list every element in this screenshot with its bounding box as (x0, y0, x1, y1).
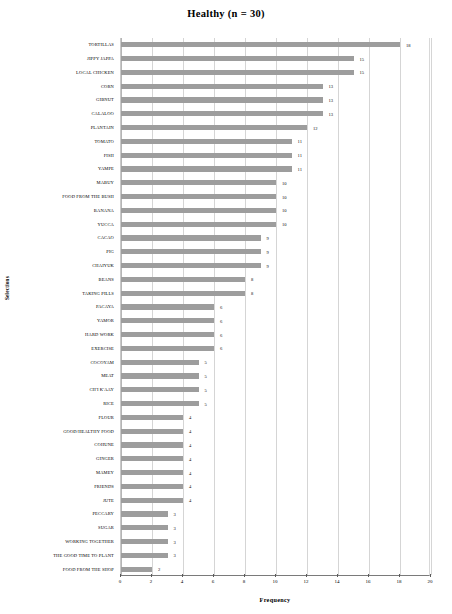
x-axis-ticks: 02468101214161820 (120, 577, 430, 591)
bar (121, 387, 199, 392)
bar-value-label: 6 (220, 318, 222, 323)
category-label: GIBNUT (96, 97, 114, 102)
bar (121, 111, 323, 116)
bar-row: 11 (121, 139, 429, 144)
bar (121, 97, 323, 102)
bar (121, 442, 183, 447)
category-label: BEANS (98, 277, 114, 282)
category-label: FLOUR (98, 415, 114, 420)
bar-row: 4 (121, 470, 429, 475)
category-label: CACAO (97, 235, 114, 240)
bar-value-label: 13 (329, 84, 334, 89)
bar-row: 10 (121, 194, 429, 199)
bar-row: 13 (121, 97, 429, 102)
x-tick-label-2: 2 (150, 579, 153, 584)
bar-value-label: 15 (360, 70, 365, 75)
bar-row: 9 (121, 263, 429, 268)
bar-value-label: 5 (205, 387, 207, 392)
bar (121, 470, 183, 475)
chart-page: Healthy (n = 30) Selections TORTILLASJIP… (0, 0, 452, 614)
bar (121, 318, 214, 323)
bar-value-label: 4 (189, 429, 191, 434)
bar-value-label: 9 (267, 263, 269, 268)
bar-row: 9 (121, 235, 429, 240)
x-tick-label-16: 16 (366, 579, 371, 584)
category-label: RICE (103, 401, 114, 406)
tick-mark-18 (399, 574, 400, 577)
bar-value-label: 6 (220, 304, 222, 309)
bar-value-label: 10 (282, 180, 287, 185)
bar-row: 5 (121, 387, 429, 392)
bar-row: 5 (121, 360, 429, 365)
bar-row: 8 (121, 277, 429, 282)
bar-row: 4 (121, 456, 429, 461)
category-label: COHUNE (94, 442, 114, 447)
bar (121, 194, 276, 199)
bar (121, 484, 183, 489)
bar-row: 18 (121, 42, 429, 47)
bar-value-label: 3 (174, 553, 176, 558)
category-label: YAMOR (97, 318, 114, 323)
bar-value-label: 6 (220, 346, 222, 351)
bar (121, 346, 214, 351)
bar-value-label: 6 (220, 332, 222, 337)
bar-row: 6 (121, 318, 429, 323)
bar (121, 139, 292, 144)
category-label: PACAYA (96, 304, 114, 309)
bar (121, 415, 183, 420)
category-label: PLANTAIN (91, 125, 114, 130)
category-label: FISH (104, 153, 114, 158)
category-label: FRIENDS (94, 484, 114, 489)
bar-value-label: 3 (174, 511, 176, 516)
bar-row: 13 (121, 111, 429, 116)
x-tick-label-12: 12 (304, 579, 309, 584)
bar (121, 70, 354, 75)
bar (121, 180, 276, 185)
bar-value-label: 11 (298, 153, 302, 158)
bar (121, 125, 307, 130)
bar (121, 456, 183, 461)
bar (121, 291, 245, 296)
bar-value-label: 12 (313, 125, 318, 130)
tick-mark-20 (430, 574, 431, 577)
bar-row: 3 (121, 539, 429, 544)
bar (121, 56, 354, 61)
bar-value-label: 8 (251, 277, 253, 282)
category-label: THE GOOD TIME TO PLANT (53, 553, 114, 558)
bar (121, 235, 261, 240)
category-label: JUTE (103, 498, 114, 503)
bar-row: 15 (121, 70, 429, 75)
tick-mark-14 (337, 574, 338, 577)
category-label: COCOYAM (90, 360, 114, 365)
bar-row: 11 (121, 153, 429, 158)
bar-value-label: 4 (189, 415, 191, 420)
bar-row: 4 (121, 484, 429, 489)
gridline-20 (431, 38, 432, 575)
tick-mark-6 (213, 574, 214, 577)
bar-row: 4 (121, 442, 429, 447)
x-tick-label-14: 14 (335, 579, 340, 584)
bar-value-label: 4 (189, 498, 191, 503)
bar-value-label: 13 (329, 98, 334, 103)
bars-container: 1815151313131211111110101010999886666555… (121, 38, 429, 575)
bar-row: 3 (121, 511, 429, 516)
bar-row: 6 (121, 332, 429, 337)
x-tick-label-10: 10 (273, 579, 278, 584)
bar (121, 498, 183, 503)
category-label: CH'I K'AAY (89, 387, 114, 392)
bar-value-label: 4 (189, 442, 191, 447)
bar (121, 429, 183, 434)
bar (121, 84, 323, 89)
category-label: MABUY (96, 180, 114, 185)
tick-mark-2 (151, 574, 152, 577)
bar-value-label: 4 (189, 456, 191, 461)
category-label: YUCCA (97, 222, 114, 227)
bar (121, 539, 168, 544)
bar-row: 5 (121, 401, 429, 406)
bar-value-label: 11 (298, 167, 302, 172)
bar-row: 2 (121, 567, 429, 572)
bar-row: 6 (121, 304, 429, 309)
category-label: MEAT (101, 373, 114, 378)
bar (121, 263, 261, 268)
bar-value-label: 15 (360, 56, 365, 61)
